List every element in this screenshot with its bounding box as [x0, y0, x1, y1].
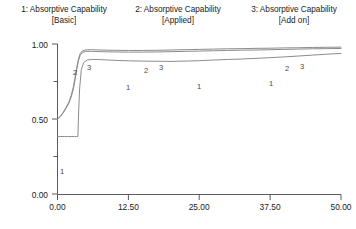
- legend-entry-2-title: 2: Absorptive Capability: [122, 4, 234, 15]
- curve-label-3-start: 3: [87, 63, 91, 72]
- curve-label-3-mid: 3: [159, 63, 163, 72]
- series-line-1: [58, 53, 342, 136]
- legend: 1: Absorptive Capability [Basic] 2: Abso…: [0, 0, 356, 30]
- chart-screenshot: 1: Absorptive Capability [Basic] 2: Abso…: [0, 0, 356, 229]
- curve-label-3-right: 3: [300, 62, 304, 71]
- legend-entry-3: 3: Absorptive Capability [Add on]: [236, 4, 352, 26]
- curve-inline-labels: 1 1 1 1 2 2 2 3 3 3: [60, 62, 304, 176]
- line-chart: 1.00 0.50 0.00 0.00 12.50 25.00 37.50 50…: [0, 28, 356, 229]
- curve-label-1-third: 1: [269, 79, 273, 88]
- legend-entry-2-subtitle: [Applied]: [122, 15, 234, 26]
- plot-area: 1.00 0.50 0.00 0.00 12.50 25.00 37.50 50…: [0, 28, 356, 229]
- x-tick-label-3: 37.50: [260, 202, 281, 212]
- legend-entry-3-title: 3: Absorptive Capability: [236, 4, 352, 15]
- x-axis: 0.00 12.50 25.00 37.50 50.00: [49, 195, 351, 213]
- y-axis: 1.00 0.50 0.00: [32, 40, 58, 200]
- y-tick-label-top: 1.00: [32, 40, 49, 50]
- curve-label-1-start: 1: [60, 167, 64, 176]
- x-tick-label-0: 0.00: [49, 202, 66, 212]
- x-tick-label-1: 12.50: [118, 202, 139, 212]
- x-tick-label-2: 25.00: [189, 202, 210, 212]
- legend-entry-1-title: 1: Absorptive Capability: [8, 4, 120, 15]
- curve-label-1-second: 1: [197, 82, 201, 91]
- y-tick-label-bottom: 0.00: [32, 190, 49, 200]
- curve-label-1-first: 1: [126, 83, 130, 92]
- x-tick-label-4: 50.00: [331, 202, 352, 212]
- legend-entry-2: 2: Absorptive Capability [Applied]: [122, 4, 234, 26]
- curve-label-2-start: 2: [73, 68, 77, 77]
- y-tick-label-mid: 0.50: [32, 115, 49, 125]
- curve-label-2-right: 2: [285, 64, 289, 73]
- legend-entry-1: 1: Absorptive Capability [Basic]: [8, 4, 120, 26]
- curve-label-2-mid: 2: [144, 66, 148, 75]
- legend-entry-3-subtitle: [Add on]: [236, 15, 352, 26]
- legend-entry-1-subtitle: [Basic]: [8, 15, 120, 26]
- series-group: [58, 47, 342, 136]
